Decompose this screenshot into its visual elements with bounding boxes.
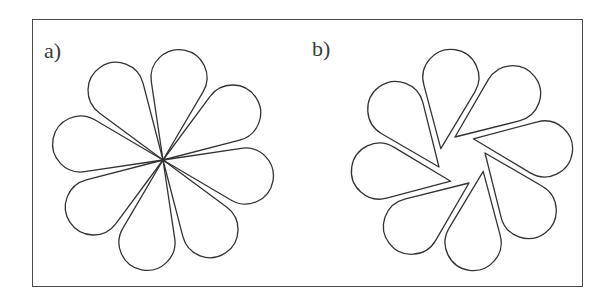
petal: [119, 160, 175, 270]
petal: [455, 66, 541, 137]
petal: [53, 116, 163, 172]
petal: [368, 81, 439, 167]
petal: [485, 153, 556, 239]
petal: [65, 160, 163, 235]
petal: [383, 183, 469, 254]
petal: [163, 148, 273, 204]
figure-canvas: [0, 0, 613, 296]
petal: [163, 85, 261, 160]
petal: [151, 50, 207, 160]
petal: [88, 62, 163, 160]
petal: [163, 160, 238, 258]
panel-b-pinwheel: [351, 49, 572, 270]
panel-a-flower: [53, 50, 274, 271]
